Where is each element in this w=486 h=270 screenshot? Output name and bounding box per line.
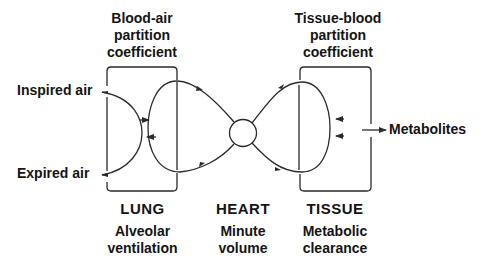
tissue-compartment: TISSUE Metabolic clearance — [290, 200, 380, 257]
lung-compartment: LUNG Alveolar ventilation — [95, 200, 190, 257]
tissue-blood-label: Tissue-blood partition coefficient — [290, 10, 386, 61]
tissue-blood-loop — [252, 82, 330, 172]
tissue-exchange-arrows — [336, 119, 344, 136]
flow-arrow-icon — [275, 167, 281, 171]
lung-blood-loop — [148, 81, 234, 172]
heart-compartment: HEART Minute volume — [200, 200, 286, 257]
expired-air-label: Expired air — [17, 165, 89, 182]
blood-air-label: Blood-air partition coefficient — [100, 10, 184, 61]
tissue-name: TISSUE — [290, 200, 380, 217]
inspired-air-label: Inspired air — [17, 82, 92, 99]
heart-circle — [230, 120, 257, 147]
lung-name: LUNG — [95, 200, 190, 217]
heart-name: HEART — [200, 200, 286, 217]
pbpk-diagram: Blood-air partition coefficient Tissue-b… — [0, 0, 486, 270]
expired-arrow-icon — [101, 173, 108, 177]
metabolites-label: Metabolites — [389, 121, 466, 138]
